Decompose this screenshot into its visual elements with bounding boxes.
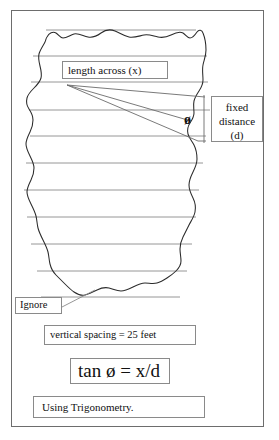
label-fixed-distance: fixed distance (d) <box>211 96 263 142</box>
diagram-page: length across (x) fixed distance (d) ø I… <box>0 0 279 440</box>
label-length-across: length across (x) <box>62 61 168 79</box>
ignore-leader-line <box>62 290 95 307</box>
angle-symbol-phi: ø <box>184 113 191 127</box>
label-fixed-distance-line2: distance <box>214 114 260 128</box>
label-fixed-distance-line3: (d) <box>214 128 260 142</box>
label-formula: tan ø = x/d <box>70 358 170 384</box>
label-using-trigonometry: Using Trigonometry. <box>33 396 205 418</box>
label-ignore: Ignore <box>15 297 62 314</box>
label-fixed-distance-line1: fixed <box>214 100 260 114</box>
label-vertical-spacing: vertical spacing = 25 feet <box>44 325 196 345</box>
